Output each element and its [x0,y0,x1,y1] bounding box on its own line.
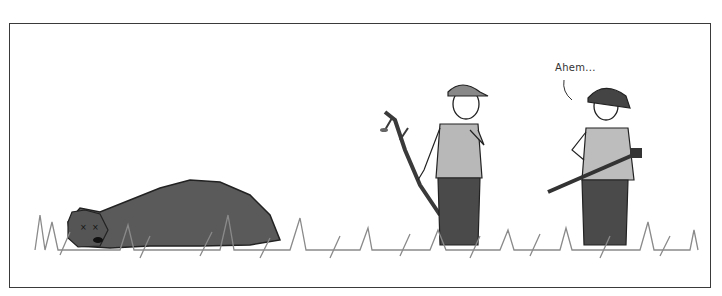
bear-nose-icon [93,237,103,243]
comic-scene: × × [0,0,722,296]
man-with-stick-illustration [380,85,488,245]
hunter-illustration [548,80,642,245]
bear-illustration: × × [68,180,280,248]
speech-tick-icon [564,80,572,100]
bear-x-eye-icon: × [92,223,99,232]
speech-text: Ahem... [555,62,596,73]
bear-x-eye-icon: × [80,223,87,232]
